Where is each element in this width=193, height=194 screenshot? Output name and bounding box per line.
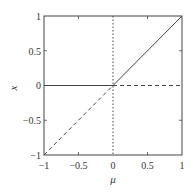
x-tick-label: −0.5	[69, 160, 87, 171]
y-tick-label: −0.5	[23, 115, 41, 126]
y-tick-label: 1	[36, 11, 41, 22]
x-tick-label: 1	[180, 160, 185, 171]
x-axis-label: μ	[109, 173, 116, 185]
bifurcation-chart: 1 0.5 0 −0.5 −1 −1 −0.5 0 0.5 1 μ x	[0, 0, 193, 194]
y-tick-label: 0	[36, 80, 41, 91]
unstable-diagonal-branch	[44, 86, 113, 156]
x-tick-label: −1	[39, 160, 50, 171]
x-tick-label: 0.5	[141, 160, 154, 171]
x-tick-label: 0	[111, 160, 116, 171]
y-tick-label: −1	[30, 150, 41, 161]
y-tick-label: 0.5	[29, 46, 42, 57]
y-axis-label: x	[7, 85, 19, 91]
stable-diagonal-branch	[113, 16, 182, 86]
